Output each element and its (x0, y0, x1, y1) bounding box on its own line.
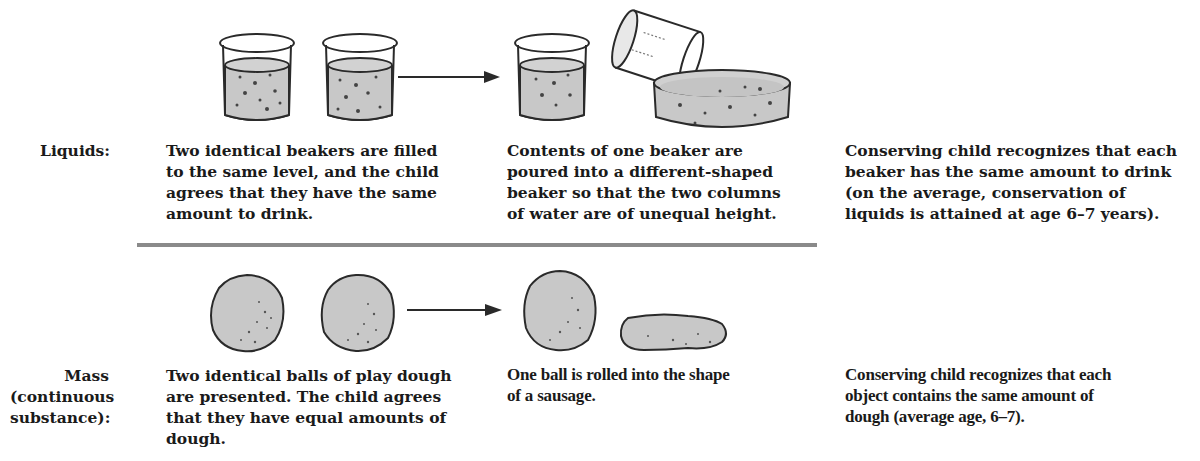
arrow-right-icon (407, 303, 502, 317)
mass-conservation-result: Conserving child recognizes that each ob… (845, 364, 1200, 427)
mass-transformation-description: One ball is rolled into the shape of a s… (507, 364, 807, 406)
row-divider (137, 243, 817, 247)
row-label-mass: Mass (continuous substance): (10, 365, 109, 428)
liquids-initial-description: Two identical beakers are filled to the … (166, 140, 466, 224)
dough-ball-icon (207, 272, 287, 354)
row-label-liquids: Liquids: (40, 140, 109, 161)
liquids-conservation-result: Conserving child recognizes that each be… (845, 140, 1200, 224)
dough-sausage-icon (618, 310, 730, 354)
mass-initial-description: Two identical balls of play dough are pr… (166, 365, 466, 449)
wide-dish-icon (650, 65, 795, 137)
beaker-icon (318, 25, 403, 125)
dough-ball-icon (318, 272, 398, 354)
beaker-icon (215, 25, 300, 125)
arrow-right-icon (398, 70, 500, 84)
liquids-transformation-description: Contents of one beaker are poured into a… (507, 140, 807, 224)
dough-ball-icon (520, 268, 600, 354)
beaker-icon (510, 25, 595, 125)
